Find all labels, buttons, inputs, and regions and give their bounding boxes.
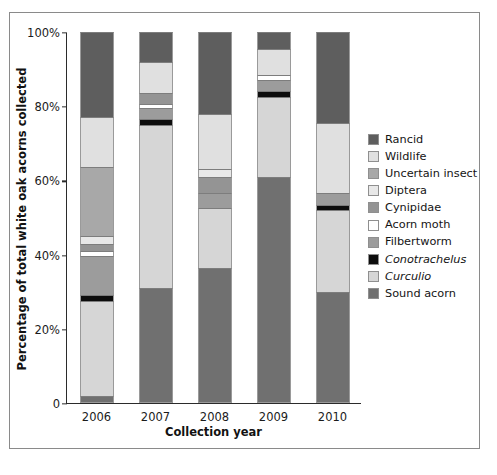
bar-segment-sound-acorn[interactable] [80,396,114,403]
bar-segment-curculio[interactable] [257,97,291,177]
bar-segment-curculio[interactable] [80,301,114,396]
bar-2007[interactable] [139,32,173,403]
legend-swatch-icon [368,288,379,299]
legend-item-label: Cynipidae [385,202,441,213]
legend-item-label: Acorn moth [385,219,450,230]
x-axis-tick-label: 2007 [141,410,170,424]
legend-item-label: Wildlife [385,151,427,162]
legend-item-acorn-moth[interactable]: Acorn moth [368,216,488,233]
legend-item-label: Rancid [385,134,423,145]
legend-item-label: Filbertworm [385,236,452,247]
plot-area: 020%40%60%80%100%20062007200820092010 [66,33,361,404]
y-axis-tick-mark [62,32,67,33]
x-axis-tick-label: 2006 [82,410,111,424]
legend-swatch-icon [368,168,379,179]
legend-item-wildlife[interactable]: Wildlife [368,148,488,165]
bar-segment-diptera[interactable] [198,169,232,176]
y-axis-tick-mark [62,255,67,256]
bar-segment-sound-acorn[interactable] [316,292,350,403]
bar-segment-wildlife[interactable] [316,123,350,193]
legend-item-label: Uncertain insect [385,168,477,179]
bar-segment-rancid[interactable] [316,32,350,123]
legend-item-diptera[interactable]: Diptera [368,182,488,199]
bar-2008[interactable] [198,32,232,403]
bar-segment-wildlife[interactable] [198,114,232,170]
y-axis-title: Percentage of total white oak acorns col… [14,33,30,404]
bar-segment-filbertworm[interactable] [80,256,114,295]
bar-segment-filbertworm[interactable] [139,108,173,119]
y-axis-title-text: Percentage of total white oak acorns col… [15,67,29,370]
bar-segment-cynipidae[interactable] [80,244,114,251]
bar-segment-filbertworm[interactable] [257,80,291,91]
bar-segment-cynipidae[interactable] [139,93,173,104]
legend-item-conotrachelus[interactable]: Conotrachelus [368,251,488,268]
bar-segment-curculio[interactable] [198,208,232,267]
bar-segment-wildlife[interactable] [80,117,114,167]
bar-segment-sound-acorn[interactable] [139,288,173,403]
legend-item-cynipidae[interactable]: Cynipidae [368,199,488,216]
bar-segment-filbertworm[interactable] [198,193,232,208]
legend-swatch-icon [368,134,379,145]
bar-2006[interactable] [80,32,114,403]
x-axis-tick-label: 2008 [200,410,229,424]
x-axis-title: Collection year [66,425,361,439]
legend-swatch-icon [368,185,379,196]
legend-item-rancid[interactable]: Rancid [368,131,488,148]
y-axis-tick-mark [62,329,67,330]
y-axis-tick-mark [62,403,67,404]
legend-item-uncertain-insect[interactable]: Uncertain insect [368,165,488,182]
legend-item-label: Diptera [385,185,427,196]
legend-swatch-icon [368,202,379,213]
bar-2010[interactable] [316,32,350,403]
legend-item-label: Curculio [385,271,431,282]
y-axis-tick-mark [62,107,67,108]
legend-item-curculio[interactable]: Curculio [368,268,488,285]
legend: RancidWildlifeUncertain insectDipteraCyn… [368,131,488,302]
legend-swatch-icon [368,254,379,265]
legend-item-sound-acorn[interactable]: Sound acorn [368,285,488,302]
legend-swatch-icon [368,237,379,248]
bar-segment-rancid[interactable] [139,32,173,62]
bar-segment-filbertworm[interactable] [316,193,350,204]
bar-segment-wildlife[interactable] [139,62,173,94]
bar-segment-sound-acorn[interactable] [257,177,291,403]
x-axis-tick-label: 2009 [259,410,288,424]
chart-figure: Percentage of total white oak acorns col… [0,0,497,475]
bar-segment-uncertain-insect[interactable] [80,167,114,236]
y-axis-tick-mark [62,181,67,182]
legend-item-filbertworm[interactable]: Filbertworm [368,234,488,251]
bar-segment-rancid[interactable] [80,32,114,117]
legend-swatch-icon [368,271,379,282]
x-axis-tick-label: 2010 [318,410,347,424]
bar-2009[interactable] [257,32,291,403]
legend-swatch-icon [368,151,379,162]
bar-segment-rancid[interactable] [257,32,291,49]
legend-swatch-icon [368,220,379,231]
bar-segment-rancid[interactable] [198,32,232,114]
legend-item-label: Conotrachelus [385,254,466,265]
bar-segment-sound-acorn[interactable] [198,268,232,403]
bar-segment-wildlife[interactable] [257,49,291,75]
bar-segment-diptera[interactable] [80,236,114,243]
legend-item-label: Sound acorn [385,288,456,299]
bar-segment-cynipidae[interactable] [198,177,232,194]
bar-segment-curculio[interactable] [316,210,350,292]
bar-segment-curculio[interactable] [139,125,173,288]
